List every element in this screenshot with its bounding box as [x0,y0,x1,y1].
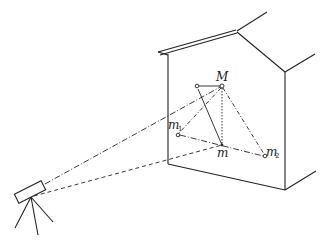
point-aux [195,84,199,88]
roof-eave-lower [160,33,237,55]
sight-line-to-M [45,86,222,184]
wall-bottom-edge [168,164,285,190]
sight-line-to-m [34,145,222,196]
gable-slope [237,32,285,72]
point-m1 [176,133,180,137]
roof-eave-upper [158,30,236,52]
label-M: M [215,70,229,84]
side-base-extension [285,171,316,190]
label-m1-subscript: 1 [178,125,182,133]
ridge-extension [237,12,267,31]
survey-diagram: M m m 1 m 2 [0,0,329,246]
point-M [220,84,224,88]
line-aux-m [198,89,222,145]
line-M-m2 [223,88,264,154]
sight-lines [34,86,222,196]
label-m: m [217,146,228,160]
side-eave-extension [285,54,315,72]
label-m2-subscript: 2 [275,152,279,160]
total-station [14,181,53,235]
building [158,12,316,190]
